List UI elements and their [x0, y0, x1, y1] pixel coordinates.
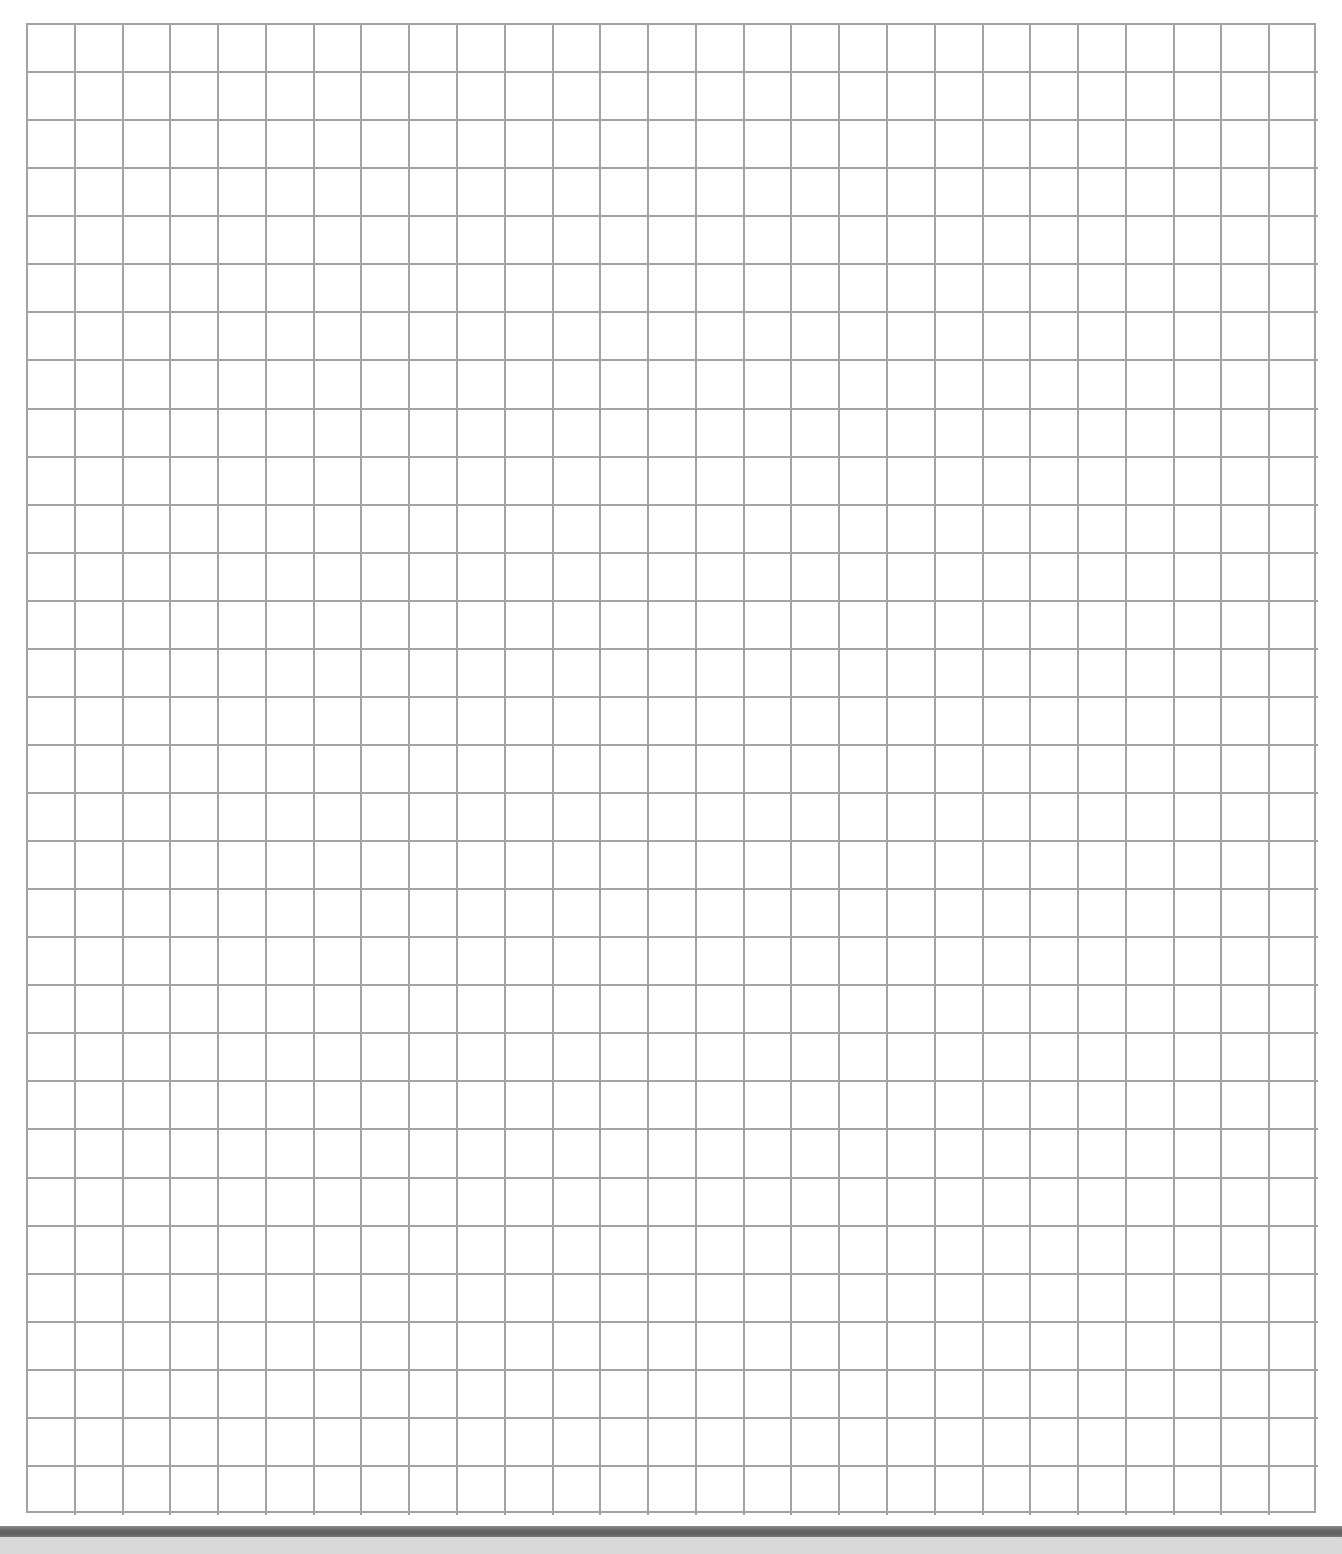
grid-lines — [28, 25, 1314, 1511]
grid-area — [26, 23, 1316, 1513]
graph-paper-sheet — [0, 0, 1342, 1526]
scan-background-strip — [0, 1537, 1342, 1554]
scan-edge-band — [0, 1526, 1342, 1537]
